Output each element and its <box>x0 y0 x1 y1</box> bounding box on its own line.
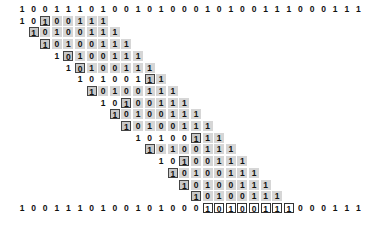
pattern-digit: 1 <box>203 180 213 190</box>
pattern-digit: 1 <box>52 51 62 61</box>
pattern-digit: 1 <box>249 168 259 178</box>
pattern-digit: 0 <box>214 168 224 178</box>
pattern-digit: 0 <box>52 16 62 26</box>
pattern-digit: 1 <box>156 133 166 143</box>
text-digit: 0 <box>179 4 189 14</box>
pattern-digit: 1 <box>98 98 108 108</box>
text-digit: 0 <box>307 203 317 213</box>
pattern-digit: 0 <box>40 27 50 37</box>
pattern-digit: 1 <box>156 98 166 108</box>
pattern-digit: 0 <box>179 133 189 143</box>
pattern-digit: 0 <box>156 144 166 154</box>
match-cell: 1 <box>272 203 282 213</box>
pattern-digit: 1 <box>87 16 97 26</box>
pattern-digit: 1 <box>214 144 224 154</box>
match-cell: 0 <box>237 203 247 213</box>
pattern-digit: 0 <box>110 63 120 73</box>
mismatch-cell: 1 <box>191 133 201 143</box>
pattern-digit: 0 <box>226 180 236 190</box>
pattern-digit: 1 <box>156 156 166 166</box>
mismatch-cell: 1 <box>121 121 131 131</box>
pattern-digit: 1 <box>168 86 178 96</box>
pattern-digit: 1 <box>191 121 201 131</box>
pattern-digit: 1 <box>191 109 201 119</box>
pattern-digit: 1 <box>214 156 224 166</box>
pattern-digit: 1 <box>179 121 189 131</box>
text-digit: 0 <box>168 203 178 213</box>
text-digit: 1 <box>98 203 108 213</box>
text-digit: 0 <box>307 4 317 14</box>
pattern-digit: 0 <box>133 121 143 131</box>
text-digit: 0 <box>168 4 178 14</box>
pattern-digit: 0 <box>203 191 213 201</box>
pattern-digit: 0 <box>121 74 131 84</box>
text-digit: 1 <box>17 4 27 14</box>
pattern-digit: 1 <box>52 27 62 37</box>
pattern-digit: 0 <box>87 39 97 49</box>
pattern-digit: 1 <box>168 98 178 108</box>
pattern-digit: 1 <box>145 86 155 96</box>
pattern-digit: 1 <box>249 180 259 190</box>
mismatch-cell: 0 <box>75 63 85 73</box>
pattern-digit: 1 <box>226 144 236 154</box>
pattern-digit: 1 <box>133 63 143 73</box>
pattern-digit: 1 <box>121 63 131 73</box>
pattern-digit: 1 <box>272 191 282 201</box>
pattern-digit: 0 <box>179 168 189 178</box>
pattern-digit: 0 <box>145 133 155 143</box>
text-digit: 1 <box>284 4 294 14</box>
text-digit: 0 <box>145 203 155 213</box>
pattern-digit: 1 <box>214 191 224 201</box>
pattern-digit: 1 <box>249 191 259 201</box>
pattern-digit: 1 <box>237 156 247 166</box>
pattern-digit: 1 <box>110 51 120 61</box>
mismatch-cell: 1 <box>145 144 155 154</box>
text-digit: 1 <box>226 4 236 14</box>
pattern-digit: 1 <box>133 133 143 143</box>
pattern-digit: 0 <box>191 156 201 166</box>
text-digit: 0 <box>87 203 97 213</box>
pattern-digit: 1 <box>98 16 108 26</box>
mismatch-cell: 1 <box>29 27 39 37</box>
pattern-digit: 0 <box>87 51 97 61</box>
text-digit: 1 <box>342 4 352 14</box>
pattern-digit: 1 <box>156 86 166 96</box>
pattern-digit: 0 <box>98 51 108 61</box>
pattern-digit: 1 <box>156 74 166 84</box>
pattern-digit: 1 <box>261 180 271 190</box>
text-digit: 0 <box>191 203 201 213</box>
text-digit: 1 <box>52 4 62 14</box>
text-digit: 0 <box>295 203 305 213</box>
mismatch-cell: 1 <box>168 168 178 178</box>
pattern-digit: 1 <box>133 109 143 119</box>
text-digit: 1 <box>353 203 363 213</box>
text-digit: 0 <box>237 4 247 14</box>
text-digit: 1 <box>63 4 73 14</box>
text-digit: 1 <box>342 203 352 213</box>
match-cell: 1 <box>284 203 294 213</box>
pattern-digit: 0 <box>214 180 224 190</box>
pattern-digit: 1 <box>226 156 236 166</box>
text-digit: 0 <box>121 203 131 213</box>
text-digit: 0 <box>121 4 131 14</box>
text-digit: 1 <box>272 4 282 14</box>
pattern-digit: 0 <box>145 109 155 119</box>
pattern-digit: 0 <box>110 98 120 108</box>
pattern-digit: 1 <box>203 133 213 143</box>
pattern-digit: 0 <box>168 133 178 143</box>
pattern-digit: 0 <box>63 16 73 26</box>
mismatch-cell: 1 <box>179 156 189 166</box>
pattern-digit: 1 <box>203 121 213 131</box>
text-digit: 1 <box>98 4 108 14</box>
text-digit: 0 <box>110 4 120 14</box>
pattern-digit: 0 <box>226 191 236 201</box>
pattern-digit: 1 <box>191 168 201 178</box>
pattern-digit: 1 <box>17 16 27 26</box>
pattern-digit: 1 <box>110 86 120 96</box>
pattern-digit: 1 <box>168 109 178 119</box>
mismatch-cell: 0 <box>63 51 73 61</box>
pattern-digit: 1 <box>87 27 97 37</box>
pattern-digit: 1 <box>168 144 178 154</box>
text-digit: 1 <box>353 4 363 14</box>
pattern-digit: 0 <box>133 86 143 96</box>
